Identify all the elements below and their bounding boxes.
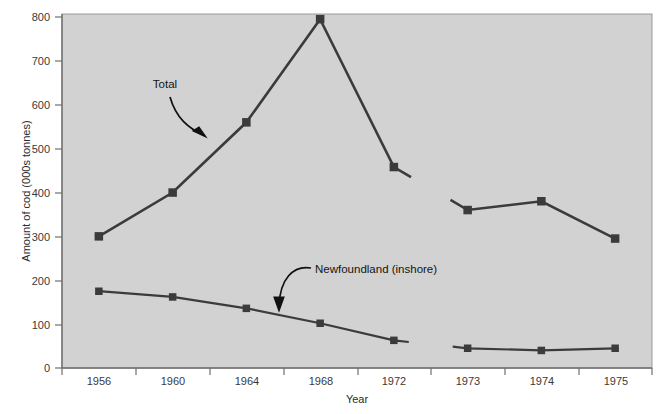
- x-tick-label-1975: 1975: [604, 375, 628, 387]
- x-tick-label-1968: 1968: [309, 375, 333, 387]
- data-point-marker: [464, 345, 472, 353]
- data-point-marker: [242, 118, 251, 127]
- y-tick-label-100: 100: [32, 319, 50, 331]
- x-tick-label-1973: 1973: [456, 375, 480, 387]
- x-tick-label-1960: 1960: [161, 375, 185, 387]
- annotation-newfoundland-label: Newfoundland (inshore): [315, 263, 437, 275]
- annotation-total-label: Total: [153, 78, 177, 90]
- x-tick-label-1974: 1974: [530, 375, 554, 387]
- x-tick-label-1956: 1956: [87, 375, 111, 387]
- y-tick-label-700: 700: [32, 55, 50, 67]
- data-point-marker: [611, 345, 619, 353]
- y-tick-label-600: 600: [32, 99, 50, 111]
- data-point-marker: [538, 347, 546, 355]
- data-point-marker: [169, 293, 177, 301]
- data-point-marker: [243, 305, 251, 313]
- data-point-marker: [316, 320, 324, 328]
- y-tick-label-500: 500: [32, 143, 50, 155]
- data-point-marker: [316, 15, 325, 24]
- data-point-marker: [95, 232, 104, 241]
- y-tick-label-800: 800: [32, 11, 50, 23]
- y-tick-label-200: 200: [32, 275, 50, 287]
- y-tick-label-300: 300: [32, 231, 50, 243]
- cod-catch-line-chart: 800 700 600 500 400 300 200 100 0 Amount…: [0, 0, 665, 414]
- data-point-marker: [463, 206, 472, 215]
- data-point-marker: [390, 163, 399, 172]
- plot-area-background: [62, 14, 652, 368]
- data-point-marker: [390, 337, 398, 345]
- data-point-marker: [95, 288, 103, 296]
- y-tick-label-400: 400: [32, 187, 50, 199]
- x-tick-label-1972: 1972: [382, 375, 406, 387]
- data-point-marker: [537, 197, 546, 206]
- chart-figure: 800 700 600 500 400 300 200 100 0 Amount…: [0, 0, 665, 414]
- y-axis-title: Amount of cod (000s tonnes): [20, 120, 32, 261]
- data-point-marker: [611, 234, 620, 243]
- y-tick-label-0: 0: [44, 362, 50, 374]
- data-point-marker: [168, 188, 177, 197]
- x-axis-title: Year: [346, 393, 369, 405]
- x-tick-label-1964: 1964: [235, 375, 259, 387]
